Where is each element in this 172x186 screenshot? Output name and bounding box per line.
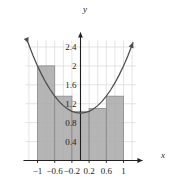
y-tick-label: 2: [72, 61, 77, 71]
x-tick-label: −0.6: [47, 166, 64, 176]
y-tick-label: 1.6: [65, 80, 77, 90]
y-tick-label: 0.4: [65, 137, 77, 147]
x-tick-labels: −1−0.6−0.20.20.61: [33, 166, 126, 176]
riemann-rectangle: [106, 96, 123, 160]
x-tick-label: −0.2: [64, 166, 80, 176]
x-tick-label: −1: [33, 166, 43, 176]
x-tick-label: 0.6: [101, 166, 113, 176]
y-axis-label: y: [83, 5, 87, 14]
y-tick-label: 1.2: [65, 99, 76, 109]
plot-canvas: 0.40.81.21.622.4 −1−0.6−0.20.20.61: [0, 0, 172, 186]
x-tick-label: 0.2: [83, 166, 94, 176]
x-tick-label: 1: [121, 166, 126, 176]
riemann-sum-chart: 0.40.81.21.622.4 −1−0.6−0.20.20.61 y x: [0, 0, 172, 186]
x-axis-label: x: [161, 151, 165, 160]
riemann-rectangle: [38, 66, 55, 161]
y-tick-label: 0.8: [65, 118, 77, 128]
y-tick-label: 2.4: [65, 42, 77, 52]
riemann-rectangle: [89, 108, 106, 160]
